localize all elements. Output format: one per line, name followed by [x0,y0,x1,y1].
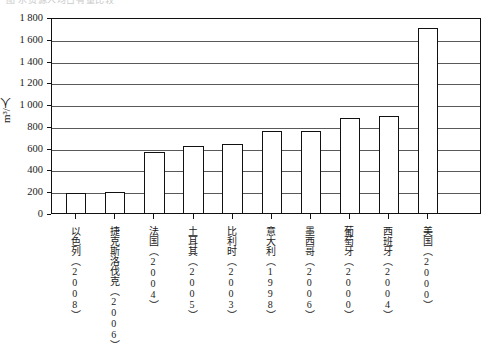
bar [66,193,86,213]
gridline [52,128,480,129]
x-axis-tick-mark [349,214,350,219]
y-axis-tick-label: 1 200 [0,78,43,88]
gridline [52,63,480,64]
y-axis-tick-label: 0 [0,209,43,219]
gridline [52,84,480,85]
y-axis-tick-label: 1 000 [0,100,43,110]
bar [144,152,164,213]
x-axis-tick-mark [153,214,154,219]
bar [105,192,125,213]
x-axis-category-label: 土耳其（2005） [187,226,198,320]
x-axis-category-label: 美国（2000） [421,226,432,310]
gridline [52,41,480,42]
bar [262,131,282,213]
x-axis-tick-mark [114,214,115,219]
bar [418,28,438,213]
x-axis-category-label: 捷克斯洛伐克（2006） [108,226,119,347]
x-axis-tick-mark [310,214,311,219]
x-axis-category-label: 葡萄牙（2000） [343,226,354,320]
x-axis-tick-mark [388,214,389,219]
bar [301,131,321,213]
x-axis-tick-mark [193,214,194,219]
x-axis-category-label: 法国（2004） [147,226,158,310]
y-axis-tick-mark [47,214,51,215]
x-axis-category-label: 以色列（2008） [69,226,80,320]
x-axis-tick-mark [232,214,233,219]
y-axis-tick-label: 400 [0,165,43,175]
x-axis-tick-mark [75,214,76,219]
x-axis-tick-mark [271,214,272,219]
bar [340,118,360,213]
plot-area [51,18,481,214]
x-axis-category-label: 意大利（1998） [265,226,276,320]
cut-off-caption: 图 水资源人均占有量比较 [6,0,246,5]
y-axis-tick-label: 1 400 [0,57,43,67]
y-axis-tick-label: 1 800 [0,13,43,23]
x-axis-category-label: 墨西哥（2006） [304,226,315,320]
x-axis-category-label: 西班牙（2004） [382,226,393,320]
bar [379,116,399,213]
gridline [52,106,480,107]
y-axis-tick-label: 1 600 [0,35,43,45]
x-axis-tick-mark [427,214,428,219]
bar [183,146,203,214]
x-axis-category-label: 比利时（2003） [226,226,237,320]
y-axis-tick-label: 600 [0,144,43,154]
y-axis-tick-label: 800 [0,122,43,132]
bar [222,144,242,213]
y-axis-tick-label: 200 [0,187,43,197]
